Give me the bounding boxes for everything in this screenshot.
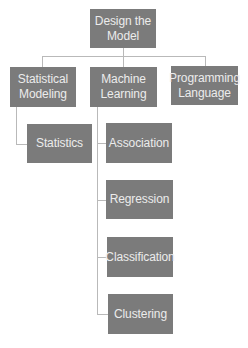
node-label: Programming Language <box>169 71 240 101</box>
node-label: Clustering <box>114 307 167 322</box>
node-label: Classification <box>105 250 174 265</box>
node-label: Statistical Modeling <box>18 72 68 102</box>
connector-to-statistical-modeling <box>42 56 43 67</box>
node-design-the-model: Design the Model <box>90 9 156 48</box>
connector-statistical-trunk <box>16 107 17 144</box>
node-label: Statistics <box>36 136 83 151</box>
node-association: Association <box>106 123 172 163</box>
connector-to-machine-learning <box>123 56 124 67</box>
connector-root-stem <box>123 48 124 56</box>
node-label: Machine Learning <box>101 72 147 102</box>
connector-to-statistics <box>16 144 27 145</box>
node-machine-learning: Machine Learning <box>90 67 157 107</box>
node-label: Regression <box>110 192 170 207</box>
connector-ml-trunk <box>97 107 98 315</box>
org-chart-diagram: Design the Model Statistical Modeling Ma… <box>0 0 248 348</box>
connector-to-programming-language <box>205 56 206 66</box>
node-classification: Classification <box>107 237 173 277</box>
node-programming-language: Programming Language <box>171 66 238 105</box>
node-statistical-modeling: Statistical Modeling <box>10 67 76 107</box>
connector-to-clustering <box>97 314 108 315</box>
connector-to-association <box>97 143 106 144</box>
node-statistics: Statistics <box>27 124 92 163</box>
node-label: Association <box>109 136 169 151</box>
connector-level1-bus <box>42 56 206 57</box>
node-clustering: Clustering <box>108 294 173 334</box>
connector-to-regression <box>97 200 106 201</box>
node-label: Design the Model <box>95 14 151 44</box>
node-regression: Regression <box>106 180 173 219</box>
